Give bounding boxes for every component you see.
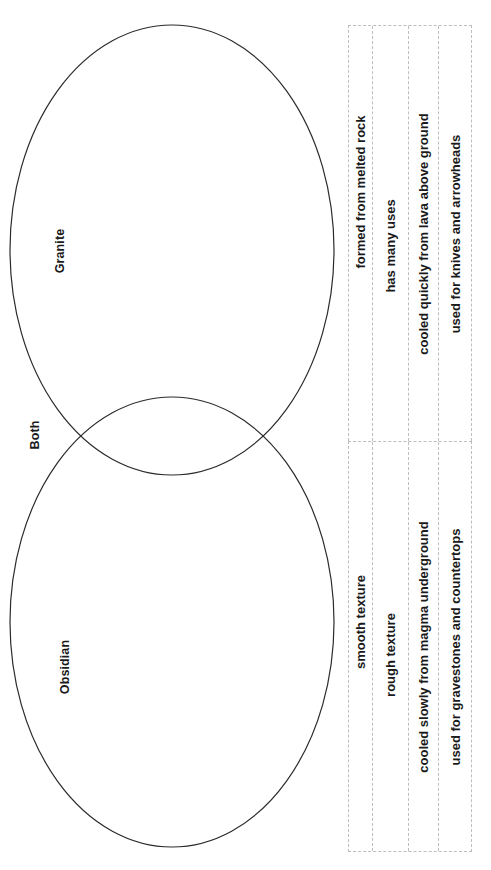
word-bank-group-1-columns: formed from melted rock has many uses co…: [349, 26, 471, 441]
venn-diagram-shapes: [0, 0, 345, 870]
word-bank-cell-2-2[interactable]: rough texture: [373, 442, 409, 851]
word-bank-group-2-columns: smooth texture rough texture cooled slow…: [349, 442, 471, 851]
venn-diagram: Granite Both Obsidian: [0, 0, 345, 870]
worksheet-page: Granite Both Obsidian formed from melted…: [0, 0, 491, 870]
venn-label-obsidian: Obsidian: [58, 602, 72, 732]
word-bank-cell-2-4[interactable]: used for gravestones and countertops: [439, 442, 471, 851]
word-bank-item[interactable]: formed from melted rock: [353, 115, 368, 268]
word-bank-cell-1-2[interactable]: has many uses: [373, 26, 409, 441]
word-bank-cell-1-1[interactable]: formed from melted rock: [349, 26, 373, 441]
venn-label-granite: Granite: [53, 186, 67, 316]
word-bank-item[interactable]: has many uses: [383, 199, 398, 292]
word-bank-cell-2-1[interactable]: smooth texture: [349, 442, 373, 851]
word-bank-item[interactable]: rough texture: [383, 613, 398, 697]
word-bank-cell-1-3[interactable]: cooled quickly from lava above ground: [409, 26, 439, 441]
venn-label-both: Both: [28, 370, 42, 500]
word-bank-item[interactable]: used for gravestones and countertops: [447, 528, 462, 765]
word-bank-group-2: smooth texture rough texture cooled slow…: [348, 441, 472, 852]
word-bank-item[interactable]: smooth texture: [353, 575, 368, 669]
word-bank-cell-2-3[interactable]: cooled slowly from magma underground: [409, 442, 439, 851]
word-bank-item[interactable]: cooled quickly from lava above ground: [416, 113, 431, 354]
word-bank-cell-1-4[interactable]: used for knives and arrowheads: [439, 26, 471, 441]
word-bank: formed from melted rock has many uses co…: [348, 25, 472, 852]
word-bank-group-1: formed from melted rock has many uses co…: [348, 25, 472, 441]
word-bank-item[interactable]: cooled slowly from magma underground: [416, 521, 431, 772]
word-bank-item[interactable]: used for knives and arrowheads: [447, 134, 462, 333]
